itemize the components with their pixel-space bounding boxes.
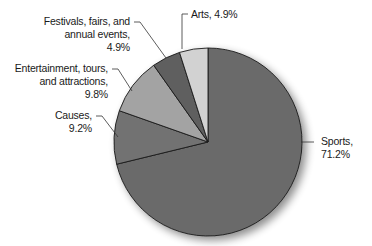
slice-label: Causes,9.2% <box>55 109 92 134</box>
pie-slices <box>114 48 302 236</box>
slice-label: Entertainment, tours,and attractions,9.8… <box>15 62 108 100</box>
slice-label: Arts, 4.9% <box>191 8 237 20</box>
leader-line <box>134 22 166 58</box>
leader-line <box>182 14 188 49</box>
pie-chart: Sports,71.2%Causes,9.2%Entertainment, to… <box>0 0 372 246</box>
leader-line <box>112 69 132 91</box>
slice-label: Sports,71.2% <box>321 135 353 160</box>
slice-label: Festivals, fairs, andannual events,4.9% <box>44 15 131 53</box>
